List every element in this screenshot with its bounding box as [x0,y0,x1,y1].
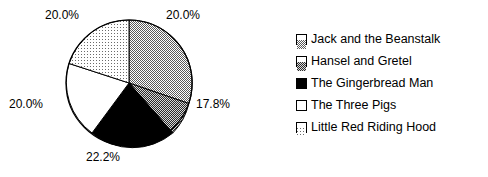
legend-label: The Three Pigs [311,98,396,112]
legend-swatch-dots-light-icon [296,122,307,133]
legend-swatch-checker-dark-icon [296,56,307,67]
legend-item-little-red-riding-hood: Little Red Riding Hood [296,116,486,138]
legend-swatch-white-icon [296,100,307,111]
legend-swatch-solid-black-icon [296,78,307,89]
pie-value-label-little-red-riding-hood: 20.0% [45,8,79,22]
pie-plot-area: 20.0% 17.8% 22.2% 20.0% 20.0% [0,0,265,177]
legend-label: Hansel and Gretel [311,54,412,68]
legend-item-the-gingerbread-man: The Gingerbread Man [296,72,486,94]
legend-item-the-three-pigs: The Three Pigs [296,94,486,116]
legend-swatch-checker-medium-icon [296,34,307,45]
legend-item-jack-and-the-beanstalk: Jack and the Beanstalk [296,28,486,50]
pie-value-label-jack-and-the-beanstalk: 20.0% [166,8,200,22]
pie-value-label-hansel-and-gretel: 17.8% [196,97,230,111]
legend-label: Jack and the Beanstalk [311,32,440,46]
legend-label: Little Red Riding Hood [311,120,436,134]
pie-value-label-the-gingerbread-man: 22.2% [86,150,120,164]
pie-svg [0,0,265,177]
legend-label: The Gingerbread Man [311,76,433,90]
legend-item-hansel-and-gretel: Hansel and Gretel [296,50,486,72]
pie-chart-figure: 20.0% 17.8% 22.2% 20.0% 20.0% Jack and t… [0,0,488,177]
pie-value-label-the-three-pigs: 20.0% [9,97,43,111]
chart-legend: Jack and the Beanstalk Hansel and Gretel… [296,28,486,138]
